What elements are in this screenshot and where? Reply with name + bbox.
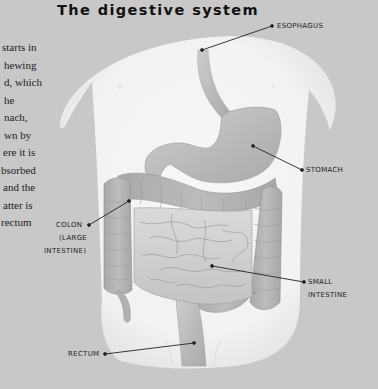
digestive-system-diagram: The digestive system starts in hewing d,…	[0, 0, 378, 389]
label-colon-line-2: (LARGE	[59, 232, 87, 245]
label-esophagus: ESOPHAGUS	[277, 20, 323, 33]
label-colon-line-1: COLON	[56, 219, 82, 232]
label-stomach: STOMACH	[306, 164, 343, 177]
label-rectum: RECTUM	[68, 348, 99, 361]
label-small-intestine-line-1: SMALL	[308, 276, 333, 289]
small-intestine	[134, 208, 252, 304]
label-small-intestine-line-2: INTESTINE	[308, 289, 347, 302]
label-colon-line-3: INTESTINE)	[44, 245, 86, 258]
anatomy-illustration	[0, 0, 378, 389]
